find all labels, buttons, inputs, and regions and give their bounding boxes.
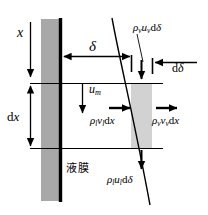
diagram-canvas (0, 0, 208, 215)
label-rho-v-v-v-dx: ρvvvdx (152, 115, 179, 128)
label-liquid-film: 液膜 (66, 163, 89, 174)
label-rho-l-u-l-ddelta: ρluldδ (107, 174, 133, 187)
film-element-block (131, 83, 152, 148)
label-rho-v-u-v-ddelta: ρvuvdδ (133, 22, 161, 35)
label-delta: δ (89, 39, 96, 54)
label-x: x (17, 26, 23, 40)
wall-block (41, 19, 60, 201)
label-u-m: um (89, 83, 101, 97)
liquid-film-diagram: x dx δ dδ ρvuvdδ um ρlvldx ρvvvdx 液膜 ρlu… (0, 0, 208, 215)
label-d-delta: dδ (172, 62, 184, 74)
label-dx: dx (7, 110, 19, 123)
label-rho-l-v-l-dx: ρlvldx (90, 115, 115, 128)
rho-v-u-v-leader-line (137, 34, 143, 62)
